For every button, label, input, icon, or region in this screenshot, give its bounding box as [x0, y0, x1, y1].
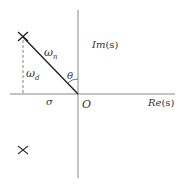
theta-label: θ: [67, 70, 73, 81]
omega-d-label: ωd: [26, 67, 40, 82]
omega-n-label: ωn: [44, 46, 58, 61]
upper-pole-marker: [18, 32, 28, 41]
lower-pole-marker: [18, 146, 28, 154]
real-axis-label: Re(s): [147, 97, 174, 108]
sigma-label: σ: [46, 96, 54, 107]
origin-label: O: [82, 98, 91, 111]
imaginary-axis-label: Im(s): [91, 39, 118, 50]
s-plane-diagram: ωn ωd θ σ O Im(s) Re(s): [0, 0, 179, 190]
